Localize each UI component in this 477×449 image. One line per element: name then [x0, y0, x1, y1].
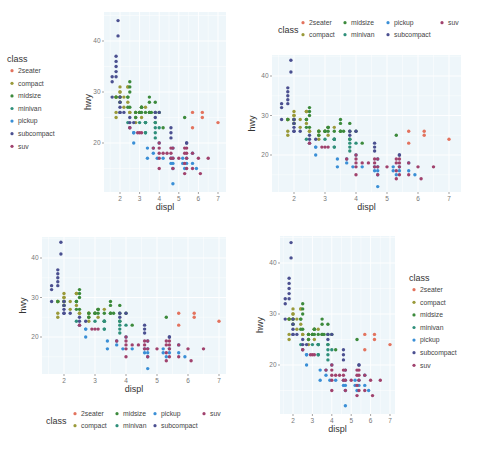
legend-label-2seater: 2seater [420, 286, 443, 293]
y-tick-label: 30 [31, 294, 39, 301]
point-subcompact [169, 131, 172, 134]
point-suv [171, 167, 174, 170]
point-subcompact [110, 95, 113, 98]
point-subcompact [118, 316, 121, 319]
point-pickup [361, 165, 364, 168]
point-midsize [305, 126, 308, 129]
point-subcompact [292, 122, 295, 125]
point-minivan [311, 343, 314, 346]
point-midsize [144, 111, 147, 114]
point-subcompact [286, 102, 289, 105]
point-compact [295, 328, 298, 331]
legend-label-2seater: 2seater [309, 19, 332, 26]
point-suv [136, 131, 139, 134]
chart-panel-legend-right: 234567203040displhwyclass2seatercompactm… [238, 224, 477, 449]
legend-key-compact [73, 424, 76, 427]
point-minivan [118, 320, 121, 323]
point-midsize [148, 101, 151, 104]
point-midsize [128, 85, 131, 88]
point-subcompact [286, 98, 289, 101]
point-pickup [305, 353, 308, 356]
point-pickup [318, 379, 321, 382]
point-2seater [177, 312, 180, 315]
point-subcompact [326, 338, 329, 341]
point-minivan [305, 138, 308, 141]
point-suv [344, 379, 347, 382]
point-midsize [326, 130, 329, 133]
point-pickup [376, 169, 379, 172]
legend-label-subcompact: subcompact [161, 422, 198, 430]
point-subcompact [286, 90, 289, 93]
point-pickup [353, 379, 356, 382]
point-suv [183, 152, 186, 155]
point-2seater [388, 343, 391, 346]
point-pickup [373, 169, 376, 172]
point-minivan [158, 126, 161, 129]
point-2seater [191, 111, 194, 114]
point-suv [189, 359, 192, 362]
point-suv [330, 374, 333, 377]
point-2seater [407, 141, 410, 144]
point-midsize [317, 333, 320, 336]
legend-key-suv [202, 412, 205, 415]
point-suv [395, 157, 398, 160]
point-subcompact [50, 288, 53, 291]
legend-key-subcompact [10, 132, 13, 135]
legend-label-midsize: midsize [351, 19, 374, 26]
legend-label-midsize: midsize [18, 92, 41, 99]
legend-key-compact [10, 82, 13, 85]
point-subcompact [286, 94, 289, 97]
point-suv [354, 173, 357, 176]
point-subcompact [118, 101, 121, 104]
chart-panel-legend-top: 234567203040displhwyclass2seatercompactm… [238, 0, 477, 224]
point-suv [207, 157, 210, 160]
point-subcompact [116, 19, 119, 22]
legend-key-suv [412, 364, 415, 367]
point-suv [357, 368, 360, 371]
x-tick-label: 7 [447, 195, 451, 202]
legend-label-minivan: minivan [420, 324, 444, 331]
point-pickup [132, 141, 135, 144]
point-midsize [355, 338, 358, 341]
point-pickup [183, 355, 186, 358]
point-pickup [336, 165, 339, 168]
point-midsize [317, 134, 320, 137]
point-midsize [307, 333, 310, 336]
chart-panel-legend-left: 234567203040displhwyclass2seatercompactm… [0, 0, 238, 224]
point-subcompact [110, 80, 113, 83]
point-subcompact [78, 316, 81, 319]
point-subcompact [169, 126, 172, 129]
point-compact [96, 316, 99, 319]
legend-key-2seater [412, 288, 415, 291]
point-minivan [154, 136, 157, 139]
point-midsize [320, 333, 323, 336]
point-compact [122, 106, 125, 109]
point-subcompact [326, 333, 329, 336]
point-subcompact [56, 268, 59, 271]
legend-label-minivan: minivan [351, 31, 375, 38]
point-suv [323, 145, 326, 148]
point-compact [317, 138, 320, 141]
legend-label-pickup: pickup [18, 117, 38, 125]
point-midsize [128, 106, 131, 109]
y-axis-title: hwy [247, 115, 257, 132]
point-minivan [118, 323, 121, 326]
point-midsize [395, 134, 398, 137]
point-2seater [201, 116, 204, 119]
point-subcompact [292, 126, 295, 129]
point-subcompact [284, 317, 287, 320]
y-tick-label: 40 [31, 254, 39, 261]
point-pickup [413, 173, 416, 176]
x-tick-label: 3 [138, 195, 142, 202]
point-midsize [348, 122, 351, 125]
point-subcompact [291, 328, 294, 331]
x-tick-label: 3 [93, 377, 97, 384]
point-subcompact [287, 287, 290, 290]
point-midsize [161, 126, 164, 129]
point-midsize [138, 111, 141, 114]
x-tick-label: 5 [349, 417, 353, 424]
point-suv [373, 165, 376, 168]
point-subcompact [301, 338, 304, 341]
point-subcompact [287, 282, 290, 285]
scatter-plot-right-legend: 234567203040displhwyclass2seatercompactm… [238, 224, 477, 449]
